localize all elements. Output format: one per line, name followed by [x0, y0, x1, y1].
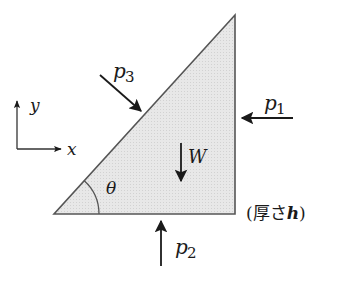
p3-subscript: 3: [125, 68, 135, 86]
p2-subscript: 2: [187, 244, 197, 262]
y-axis-label: y: [29, 95, 40, 115]
coordinate-axes: y x: [17, 95, 77, 159]
thickness-note-text: (厚さh): [246, 203, 306, 223]
theta-label: θ: [106, 178, 116, 198]
force-p3: p 3: [100, 59, 141, 111]
force-p1: p 1: [242, 91, 293, 118]
thickness-variable: h: [287, 203, 299, 223]
thickness-note-close: ): [299, 203, 306, 223]
x-axis-label: x: [67, 139, 77, 159]
free-body-diagram: θ y x p 3 p 1 W p 2: [0, 0, 348, 283]
p1-subscript: 1: [276, 100, 286, 118]
thickness-note-open: (厚さ: [246, 203, 287, 223]
weight-label: W: [188, 146, 208, 167]
triangle-body: [54, 15, 235, 214]
force-p2: p 2: [161, 221, 197, 266]
thickness-note: (厚さh): [246, 203, 306, 223]
